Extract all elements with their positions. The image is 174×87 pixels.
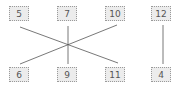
box-4: 4 (151, 67, 171, 82)
box-12: 12 (151, 6, 171, 21)
box-10: 10 (105, 6, 125, 21)
box-6: 6 (9, 67, 29, 82)
line-10-to-6 (20, 25, 117, 64)
box-11: 11 (105, 67, 125, 82)
box-9: 9 (57, 67, 77, 82)
box-7: 7 (57, 6, 77, 21)
line-5-to-11 (20, 27, 118, 63)
box-5: 5 (9, 6, 29, 21)
